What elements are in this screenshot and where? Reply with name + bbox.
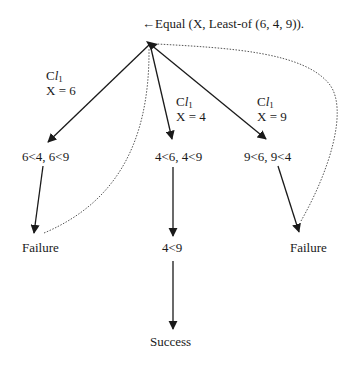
edge-root-to-right <box>150 44 266 139</box>
edge-right-to-failure <box>278 166 299 232</box>
result-left-failure: Failure <box>22 240 59 255</box>
result-right-failure: Failure <box>290 240 327 255</box>
intermediate-middle: 4<9 <box>162 240 182 255</box>
condition-left: 6<4, 6<9 <box>22 149 69 164</box>
condition-middle: 4<6, 4<9 <box>155 149 202 164</box>
search-tree-diagram <box>0 0 360 367</box>
binding-right: X = 9 <box>257 109 287 124</box>
edge-root-to-middle <box>150 44 172 139</box>
binding-middle: X = 4 <box>176 109 206 124</box>
binding-left: X = 6 <box>46 83 76 98</box>
goal-title: ←Equal (X, Least-of (6, 4, 9)). <box>142 16 304 31</box>
condition-right: 9<6, 9<4 <box>244 149 291 164</box>
edge-left-to-failure <box>34 166 43 233</box>
backtrack-right-curve <box>157 44 337 221</box>
result-middle-success: Success <box>150 334 191 349</box>
